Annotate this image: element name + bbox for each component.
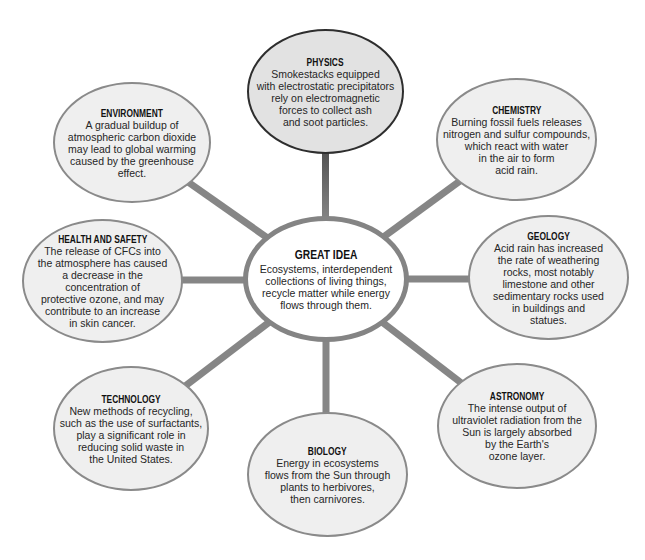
node-text-line: contribute to an increase bbox=[45, 305, 160, 317]
node-text-line: in the air to form bbox=[479, 152, 555, 164]
node-text-line: ultraviolet radiation from the bbox=[452, 414, 582, 426]
node-text-line: acid rain. bbox=[495, 164, 538, 176]
node-text-line: which react with water bbox=[465, 140, 568, 152]
node-text-line: the rate of weathering bbox=[498, 254, 600, 266]
node-text-line: reducing solid waste in bbox=[78, 441, 184, 453]
node-title: HEALTH AND SAFETY bbox=[58, 233, 147, 245]
node-text-line: atmospheric carbon dioxide bbox=[68, 131, 196, 143]
node-astronomy: ASTRONOMY The intense output of ultravio… bbox=[437, 363, 597, 489]
node-title: CHEMISTRY bbox=[492, 104, 541, 116]
center-title: GREAT IDEA bbox=[295, 247, 358, 262]
node-text-line: A gradual buildup of bbox=[86, 119, 179, 131]
node-geology: GEOLOGY Acid rain has increased the rate… bbox=[468, 215, 629, 340]
node-chemistry: CHEMISTRY Burning fossil fuels releases … bbox=[436, 78, 597, 201]
node-text-line: by the Earth's bbox=[485, 438, 549, 450]
node-text-line: concentration of bbox=[65, 281, 140, 293]
center-body: Ecosystems, interdependent collections o… bbox=[260, 263, 393, 311]
node-title: GEOLOGY bbox=[527, 230, 569, 242]
node-text-line: effect. bbox=[118, 167, 146, 179]
node-biology: BIOLOGY Energy in ecosystems flows from … bbox=[247, 412, 408, 537]
node-text-line: rely on electromagnetic bbox=[271, 92, 380, 104]
node-text-line: Smokestacks equipped bbox=[271, 68, 380, 80]
node-text-line: Burning fossil fuels releases bbox=[451, 116, 582, 128]
concept-web-diagram: PHYSICS Smokestacks equipped with electr… bbox=[0, 0, 645, 560]
node-text-line: play a significant role in bbox=[76, 429, 185, 441]
node-body: Smokestacks equipped with electrostatic … bbox=[257, 68, 395, 128]
node-physics: PHYSICS Smokestacks equipped with electr… bbox=[247, 29, 404, 154]
node-title: ASTRONOMY bbox=[490, 390, 545, 402]
center-text-line: flows through them. bbox=[280, 299, 372, 311]
node-body: New methods of recycling, such as the us… bbox=[60, 405, 202, 465]
node-text-line: ozone layer. bbox=[489, 450, 546, 462]
node-text-line: statues. bbox=[530, 314, 567, 326]
node-title: TECHNOLOGY bbox=[101, 393, 160, 405]
node-text-line: The release of CFCs into bbox=[44, 245, 161, 257]
node-text-line: New methods of recycling, bbox=[69, 405, 192, 417]
node-text-line: a decrease in the bbox=[62, 269, 143, 281]
node-body: The release of CFCs into the atmosphere … bbox=[38, 245, 168, 329]
node-text-line: the United States. bbox=[89, 453, 172, 465]
node-text-line: may lead to global warming bbox=[68, 143, 196, 155]
node-text-line: in skin cancer. bbox=[69, 317, 136, 329]
node-great-idea: GREAT IDEA Ecosystems, interdependent co… bbox=[243, 216, 409, 342]
node-health-and-safety: HEALTH AND SAFETY The release of CFCs in… bbox=[22, 219, 183, 343]
node-text-line: Acid rain has increased bbox=[494, 242, 603, 254]
node-body: The intense output of ultraviolet radiat… bbox=[452, 402, 582, 462]
node-text-line: caused by the greenhouse bbox=[70, 155, 194, 167]
node-title: PHYSICS bbox=[307, 56, 344, 68]
node-text-line: Sun is largely absorbed bbox=[462, 426, 572, 438]
center-text-line: Ecosystems, interdependent bbox=[260, 263, 393, 275]
node-environment: ENVIRONMENT A gradual buildup of atmosph… bbox=[53, 82, 211, 203]
node-text-line: rocks, most notably bbox=[503, 266, 593, 278]
node-body: Burning fossil fuels releases nitrogen a… bbox=[443, 116, 590, 176]
center-text-line: collections of living things, bbox=[265, 275, 386, 287]
node-text-line: nitrogen and sulfur compounds, bbox=[443, 128, 590, 140]
node-text-line: with electrostatic precipitators bbox=[257, 80, 395, 92]
node-title: ENVIRONMENT bbox=[101, 107, 163, 119]
node-text-line: Energy in ecosystems bbox=[276, 457, 379, 469]
node-text-line: the atmosphere has caused bbox=[38, 257, 168, 269]
node-text-line: in buildings and bbox=[512, 302, 585, 314]
node-body: A gradual buildup of atmospheric carbon … bbox=[68, 119, 196, 179]
node-text-line: plants to herbivores, bbox=[280, 481, 375, 493]
node-text-line: flows from the Sun through bbox=[265, 469, 390, 481]
node-text-line: then carnivores. bbox=[290, 493, 365, 505]
node-text-line: and soot particles. bbox=[283, 116, 368, 128]
node-text-line: protective ozone, and may bbox=[41, 293, 164, 305]
node-technology: TECHNOLOGY New methods of recycling, suc… bbox=[53, 366, 209, 491]
node-body: Acid rain has increased the rate of weat… bbox=[493, 242, 604, 326]
node-text-line: sedimentary rocks used bbox=[493, 290, 604, 302]
node-text-line: forces to collect ash bbox=[279, 104, 372, 116]
node-text-line: The intense output of bbox=[468, 402, 567, 414]
node-text-line: such as the use of surfactants, bbox=[60, 417, 202, 429]
node-title: BIOLOGY bbox=[308, 445, 347, 457]
node-body: Energy in ecosystems flows from the Sun … bbox=[265, 457, 390, 505]
center-text-line: recycle matter while energy bbox=[262, 287, 390, 299]
node-text-line: limestone and other bbox=[502, 278, 594, 290]
